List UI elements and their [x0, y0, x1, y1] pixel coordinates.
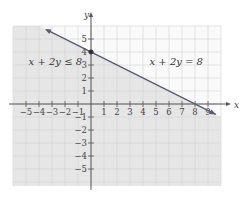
x-axis-label: x [234, 100, 239, 110]
y-tick-label: 5 [82, 34, 87, 44]
x-axis-arrow-icon [226, 102, 231, 106]
x-tick-label: −4 [33, 107, 46, 117]
y-tick-label: 1 [82, 86, 87, 96]
y-tick-label: −2 [74, 125, 87, 135]
x-tick-label: −5 [20, 107, 33, 117]
x-tick-label: 4 [140, 107, 145, 117]
y-tick-label: −1 [74, 112, 87, 122]
intercept-point [89, 50, 94, 55]
y-axis-label: y [83, 10, 90, 20]
inequality-graph: −5−4−3−2−1123456789−5−4−3−2−112345xyx + … [0, 0, 242, 200]
x-tick-label: 2 [114, 107, 119, 117]
x-tick-label: 1 [101, 107, 106, 117]
y-tick-label: −3 [74, 138, 87, 148]
x-tick-label: −3 [46, 107, 59, 117]
y-tick-label: −5 [74, 164, 87, 174]
x-tick-label: 7 [179, 107, 184, 117]
annotation-0: x + 2y ≤ 8 [29, 56, 83, 67]
y-tick-label: 2 [82, 73, 87, 83]
y-axis-arrow-icon [89, 12, 93, 17]
x-tick-label: 8 [192, 107, 197, 117]
annotation-1: x + 2y = 8 [150, 56, 204, 67]
y-tick-label: 3 [82, 60, 87, 70]
x-tick-label: 3 [127, 107, 132, 117]
y-tick-label: −4 [74, 151, 87, 161]
x-tick-label: 5 [153, 107, 158, 117]
x-tick-label: −2 [59, 107, 72, 117]
x-tick-label: 6 [166, 107, 171, 117]
